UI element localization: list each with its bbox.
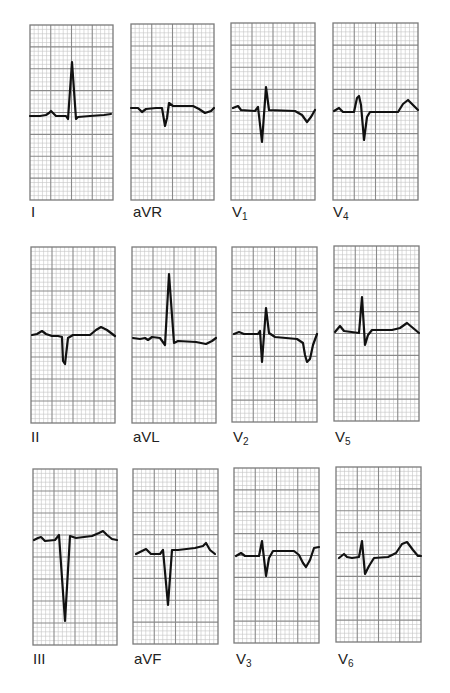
lead-label-main: V (333, 203, 343, 220)
lead-panel-avl (132, 247, 216, 423)
lead-label-subscript: 4 (343, 211, 349, 222)
lead-label-main: aVF (134, 650, 162, 667)
lead-panel-v6 (336, 467, 421, 642)
lead-panel-iii (33, 469, 117, 645)
lead-label-iii: III (33, 651, 46, 666)
lead-label-avr: aVR (133, 204, 162, 219)
lead-label-subscript: 2 (243, 436, 249, 447)
lead-label-main: III (33, 650, 46, 667)
lead-label-v5: V5 (335, 429, 351, 447)
lead-label-main: V (236, 650, 246, 667)
lead-panel-i (30, 25, 113, 200)
lead-label-v2: V2 (233, 429, 249, 447)
lead-label-main: V (232, 203, 242, 220)
lead-label-v4: V4 (333, 204, 349, 222)
lead-panel-v3 (234, 468, 319, 643)
lead-panel-v2 (232, 247, 317, 422)
lead-label-main: V (335, 428, 345, 445)
lead-label-v3: V3 (236, 651, 252, 669)
lead-label-main: V (233, 428, 243, 445)
lead-label-subscript: 5 (345, 436, 351, 447)
lead-panel-avf (133, 469, 218, 644)
lead-label-main: I (31, 203, 35, 220)
lead-label-avl: aVL (133, 429, 160, 444)
lead-label-i: I (31, 204, 35, 219)
lead-label-main: V (338, 650, 348, 667)
lead-label-ii: II (31, 429, 39, 444)
lead-label-main: aVL (133, 428, 160, 445)
lead-label-v6: V6 (338, 651, 354, 669)
lead-label-main: II (31, 428, 39, 445)
lead-label-subscript: 1 (242, 211, 248, 222)
lead-label-v1: V1 (232, 204, 248, 222)
lead-label-avf: aVF (134, 651, 162, 666)
lead-label-main: aVR (133, 203, 162, 220)
lead-label-subscript: 3 (246, 658, 252, 669)
lead-panel-avr (131, 24, 214, 200)
lead-panel-v5 (334, 246, 419, 421)
lead-label-subscript: 6 (348, 658, 354, 669)
lead-panel-v4 (333, 23, 418, 200)
lead-panel-ii (31, 247, 115, 423)
lead-panel-v1 (231, 23, 315, 200)
ecg-figure (0, 0, 450, 693)
